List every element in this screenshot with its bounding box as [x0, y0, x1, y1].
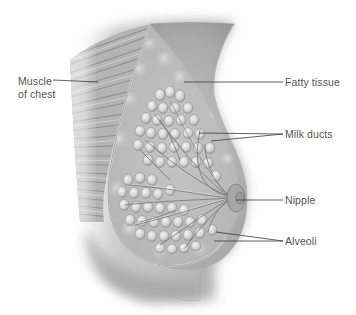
label-nipple: Nipple	[285, 194, 315, 206]
label-muscle-line1: Muscle	[18, 75, 56, 88]
nipple	[227, 184, 245, 212]
label-alveoli: Alveoli	[285, 235, 317, 247]
anatomy-illustration	[0, 0, 356, 315]
label-muscle-of-chest: Muscle of chest	[18, 75, 56, 101]
breast-anatomy-diagram: Muscle of chest Fatty tissue Milk ducts …	[0, 0, 356, 315]
label-milk-ducts: Milk ducts	[285, 128, 333, 140]
label-muscle-line2: of chest	[18, 88, 56, 101]
label-fatty-tissue: Fatty tissue	[285, 76, 340, 88]
